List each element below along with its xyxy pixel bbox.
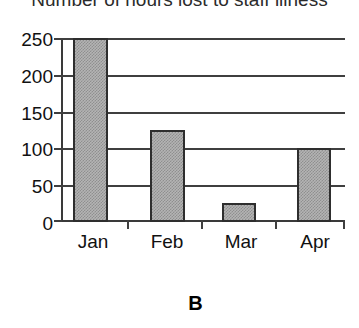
y-tick-label-200: 200 bbox=[0, 67, 53, 86]
x-tick-mark-4 bbox=[343, 220, 345, 229]
y-tick-label-250: 250 bbox=[0, 30, 53, 49]
y-tick-label-100: 100 bbox=[0, 140, 53, 159]
x-tick-label-mar: Mar bbox=[204, 232, 278, 252]
y-tick-mark-250 bbox=[54, 38, 62, 40]
plot-area bbox=[61, 38, 345, 222]
chart-title-clip: Number of hours lost to staff illness bbox=[0, 0, 359, 11]
y-tick-label-0: 0 bbox=[0, 214, 53, 233]
y-tick-mark-50 bbox=[54, 185, 62, 187]
x-tick-mark-3 bbox=[275, 220, 277, 229]
x-tick-label-apr: Apr bbox=[278, 232, 352, 252]
y-tick-label-150: 150 bbox=[0, 104, 53, 123]
bar-chart-figure: Number of hours lost to staff illness 25… bbox=[0, 0, 359, 328]
chart-title: Number of hours lost to staff illness bbox=[31, 0, 327, 11]
y-tick-mark-0 bbox=[54, 220, 62, 222]
y-tick-label-50: 50 bbox=[0, 177, 53, 196]
bar-jan bbox=[73, 38, 108, 222]
y-tick-mark-150 bbox=[54, 112, 62, 114]
x-tick-label-jan: Jan bbox=[56, 232, 130, 252]
panel-letter: B bbox=[16, 292, 359, 314]
x-tick-mark-1 bbox=[127, 220, 129, 229]
bar-feb bbox=[150, 130, 185, 222]
bar-mar bbox=[222, 203, 256, 222]
x-tick-label-feb: Feb bbox=[130, 232, 204, 252]
y-tick-mark-100 bbox=[54, 148, 62, 150]
x-tick-mark-2 bbox=[201, 220, 203, 229]
bar-apr bbox=[297, 148, 331, 222]
y-tick-mark-200 bbox=[54, 75, 62, 77]
